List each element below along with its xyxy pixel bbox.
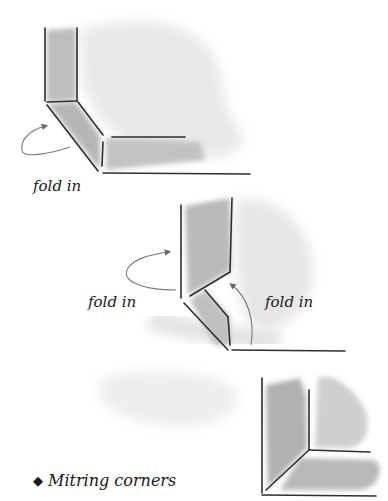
fold-in-label-step1: fold in (33, 177, 81, 195)
fold-in-label-step2-right: fold in (265, 293, 313, 311)
step1-corner (22, 21, 250, 174)
caption-text: Mitring corners (48, 471, 176, 490)
diamond-bullet-icon: ◆ (33, 473, 43, 488)
illustration-drawing (0, 0, 388, 501)
fold-in-label-step2-left: fold in (88, 293, 136, 311)
step2-corner (126, 198, 345, 351)
mitring-corners-illustration: fold in fold in fold in ◆Mitring corners (0, 0, 388, 501)
figure-caption: ◆Mitring corners (33, 471, 176, 490)
